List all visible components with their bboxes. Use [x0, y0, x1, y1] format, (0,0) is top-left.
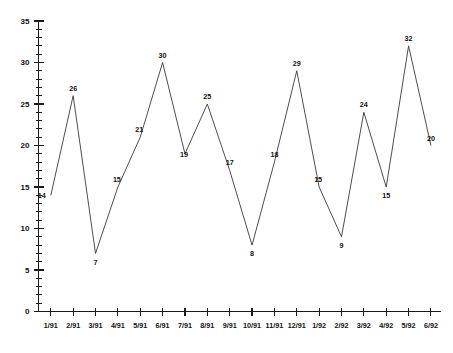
data-line-series-1 — [51, 46, 431, 254]
x-axis-tick-label: 9/91 — [223, 321, 237, 330]
x-axis-tick-label: 4/92 — [379, 321, 393, 330]
y-axis-tick-label: 30 — [21, 58, 30, 67]
x-axis-tick-label: 12/91 — [288, 321, 306, 330]
data-point-label: 17 — [226, 158, 234, 167]
data-point-label: 14 — [38, 191, 46, 200]
y-axis-tick-label: 5 — [25, 266, 30, 275]
data-point-label: 15 — [382, 191, 390, 200]
y-axis-tick-label: 20 — [21, 141, 30, 150]
data-point-label: 8 — [250, 249, 254, 258]
x-axis-tick-label: 7/91 — [178, 321, 192, 330]
x-axis-tick-label: 3/91 — [89, 321, 103, 330]
x-axis-tick-label: 6/92 — [424, 321, 438, 330]
data-point-label: 15 — [113, 175, 121, 184]
y-axis-tick-labels: 05101520253035 — [21, 17, 30, 317]
x-axis-tick-labels: 1/912/913/914/915/916/917/918/919/9110/9… — [44, 321, 438, 330]
x-axis-tick-label: 11/91 — [266, 321, 284, 330]
data-point-label: 32 — [405, 34, 413, 43]
y-axis-tick-label: 35 — [21, 17, 30, 26]
data-point-label: 15 — [314, 175, 322, 184]
x-axis-tick-label: 1/91 — [44, 321, 58, 330]
x-axis-tick-label: 2/91 — [66, 321, 80, 330]
chart-plot-area: 05101520253035 1/912/913/914/915/916/917… — [0, 0, 453, 353]
x-axis-group: 1/912/913/914/915/916/917/918/919/9110/9… — [39, 308, 442, 330]
x-axis-tick-label: 4/91 — [111, 321, 125, 330]
series-group: 142671521301925178182915924153220 — [38, 34, 435, 268]
data-point-label: 21 — [135, 125, 143, 134]
x-axis-tick-label: 2/92 — [334, 321, 348, 330]
x-axis-tick-label: 1/92 — [312, 321, 326, 330]
data-point-label: 29 — [293, 59, 301, 68]
y-axis-tick-label: 25 — [21, 100, 30, 109]
data-point-label: 24 — [360, 100, 368, 109]
data-point-label: 9 — [339, 241, 343, 250]
x-axis-tick-label: 3/92 — [357, 321, 371, 330]
x-axis-tick-label: 10/91 — [243, 321, 261, 330]
data-point-label: 20 — [427, 134, 435, 143]
y-axis-group: 05101520253035 — [21, 17, 44, 317]
x-axis-tick-label: 5/91 — [133, 321, 147, 330]
x-axis-tick-label: 8/91 — [200, 321, 214, 330]
data-point-label: 26 — [69, 84, 77, 93]
data-point-label: 19 — [180, 150, 188, 159]
line-chart-figure: 05101520253035 1/912/913/914/915/916/917… — [0, 0, 453, 353]
x-axis-tick-label: 6/91 — [156, 321, 170, 330]
y-axis-tick-label: 15 — [21, 183, 30, 192]
y-axis-tick-label: 0 — [25, 307, 30, 316]
y-axis-tick-label: 10 — [21, 224, 30, 233]
data-point-label: 7 — [94, 258, 98, 267]
data-point-label: 30 — [159, 51, 167, 60]
data-point-label: 25 — [203, 92, 211, 101]
data-point-label: 18 — [270, 150, 278, 159]
x-axis-tick-label: 5/92 — [402, 321, 416, 330]
